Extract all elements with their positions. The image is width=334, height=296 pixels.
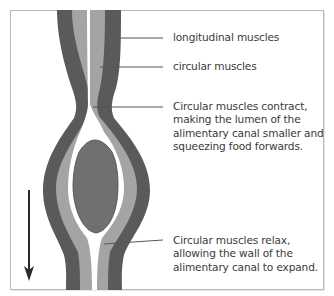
label-circular-contract: Circular muscles contract, making the lu… [173,100,324,154]
label-contract-line-3: alimentary canal smaller and [173,127,324,140]
label-relax-line-3: alimentary canal to expand. [173,261,318,274]
label-circular-muscles: circular muscles [173,60,257,73]
down-arrow-icon [24,190,34,281]
label-contract-line-2: making the lumen of the [173,113,324,126]
label-contract-line-1: Circular muscles contract, [173,100,324,113]
label-circular-relax: Circular muscles relax, allowing the wal… [173,234,318,274]
label-relax-line-2: allowing the wall of the [173,247,318,260]
label-relax-line-1: Circular muscles relax, [173,234,318,247]
label-longitudinal-muscles: longitudinal muscles [173,31,279,44]
label-contract-line-4: squeezing food forwards. [173,140,324,153]
